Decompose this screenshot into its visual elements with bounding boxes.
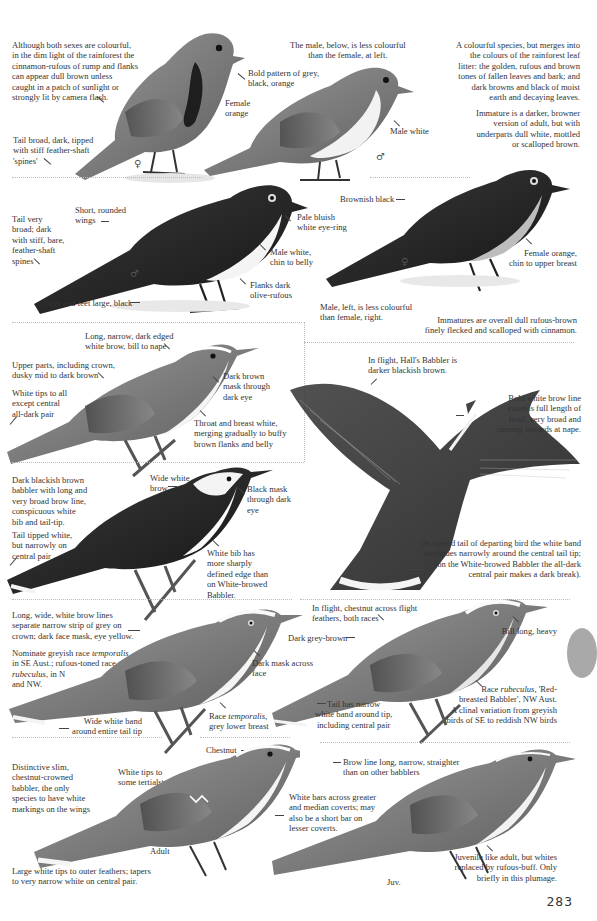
note-legs: Legs and feet large, black [44,298,132,308]
note-male-less-colourful: The male, below, is less colourful than … [290,40,406,61]
note-white-bib: White bib has more sharply defined edge … [207,548,268,600]
female-symbol: ♀ [401,256,408,267]
section-divider [12,322,302,323]
note-race-temporalis: Race temporalis, grey lower breast [209,711,269,732]
female-symbol: ♀ [134,158,141,169]
note-black-mask: Black mask through dark eye [247,484,291,515]
female-dark-bird-illustration [320,165,570,300]
male-symbol: ♂ [130,268,139,279]
chapter-thumb-tab [567,628,597,678]
grey-crowned-babbler-illustration [5,605,305,755]
section-divider [12,599,292,600]
section-divider [304,342,574,343]
note-male-less-colourful-right: Male, left, is less colourful than femal… [320,302,412,323]
note-female-chin-breast: Female orange, chin to upper breast [509,248,577,269]
note-in-flight-halls: In flight, Hall's Babbler is darker blac… [368,355,457,376]
note-juvenile: Juvenile like adult, but whites replaced… [454,852,557,883]
note-spread-tail: On spread tail of departing bird the whi… [420,538,581,580]
note-dark-brown-mask: Dark brown mask through dark eye [223,371,270,402]
callout-line [410,569,422,570]
note-bold-brow: Bold white brow line extends full length… [497,393,581,435]
section-divider [12,737,162,738]
note-bill-long: Bill long, heavy [502,626,557,636]
note-wide-band: Wide white band around entire tail tip [70,716,142,737]
note-flanks: Flanks dark olive-rufous [250,280,292,301]
note-male-white: Male white [390,126,429,136]
male-symbol: ♂ [376,151,385,162]
label-juvenile: Juv. [387,877,401,887]
callout-line [317,703,326,704]
note-immature: Immature is a darker, browner version of… [476,108,580,150]
note-colourful-species: A colourful species, but merges into the… [456,40,580,102]
section-divider [12,177,202,178]
white-browed-babbler-illustration [5,340,265,480]
note-throat-breast: Throat and breast white, merging gradual… [194,418,287,449]
callout-line [59,728,69,729]
section-divider [320,742,570,743]
note-race-rubeculus: Race rubeculus, 'Red- breasted Babbler',… [446,684,557,726]
label-adult: Adult [150,846,170,856]
callout-line [130,302,140,303]
note-large-white-tips: Large white tips to outer feathers; tape… [12,866,151,887]
note-immatures: Immatures are overall dull rufous-brown … [425,315,577,336]
note-tail-narrow-band: Tail has narrow white band around tip, i… [315,699,392,730]
note-male-chin-belly: Male white, chin to belly [270,247,313,268]
section-divider [200,737,290,738]
callout-line [456,415,464,416]
page-number: 283 [547,894,573,909]
